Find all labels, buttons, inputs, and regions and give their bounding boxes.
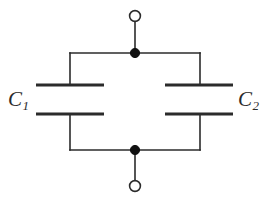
circuit-schematic-canvas (0, 0, 269, 202)
bottom-junction-dot-icon (130, 145, 139, 154)
capacitor-c1-label-symbol: C (8, 87, 22, 111)
capacitor-c1-label-subscript: 1 (23, 98, 30, 113)
capacitor-c2-label: C2 (238, 89, 259, 112)
bottom-terminal-open-circle-icon (130, 181, 141, 192)
top-terminal-open-circle-icon (130, 11, 141, 22)
capacitor-c2-label-symbol: C (238, 87, 252, 111)
capacitor-c2-label-subscript: 2 (253, 98, 260, 113)
top-junction-dot-icon (130, 48, 139, 57)
circuit-diagram: C1 C2 (0, 0, 269, 202)
capacitor-c1-label: C1 (8, 89, 29, 112)
